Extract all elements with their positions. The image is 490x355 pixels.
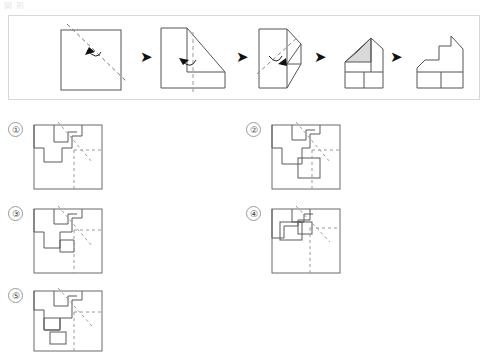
option-2-figure (268, 122, 346, 192)
step-5-figure (405, 16, 481, 101)
sequence-step-5 (405, 16, 481, 101)
step-2-figure (155, 16, 241, 101)
option-4-number: ④ (246, 206, 261, 221)
option-5[interactable]: ⑤ (8, 288, 118, 354)
option-1[interactable]: ① (8, 122, 118, 194)
option-3[interactable]: ③ (8, 206, 118, 278)
option-5-figure (30, 288, 108, 354)
option-4[interactable]: ④ (246, 206, 356, 278)
folding-sequence-panel: ➤ ➤ ➤ (8, 15, 480, 100)
option-2[interactable]: ② (246, 122, 356, 194)
page-header-fragment: 図 形 (4, 0, 74, 9)
option-4-figure (268, 206, 346, 276)
option-3-figure (30, 206, 108, 276)
option-1-figure (30, 122, 108, 192)
option-5-number: ⑤ (8, 288, 23, 303)
sequence-step-2 (155, 16, 241, 101)
option-1-number: ① (8, 122, 23, 137)
sequence-arrow-1: ➤ (137, 50, 155, 64)
step-1-figure (51, 16, 139, 101)
option-2-number: ② (246, 122, 261, 137)
sequence-arrow-4: ➤ (387, 50, 405, 64)
option-3-number: ③ (8, 206, 23, 221)
sequence-step-1 (51, 16, 139, 101)
sequence-inner: ➤ ➤ ➤ (9, 16, 479, 99)
